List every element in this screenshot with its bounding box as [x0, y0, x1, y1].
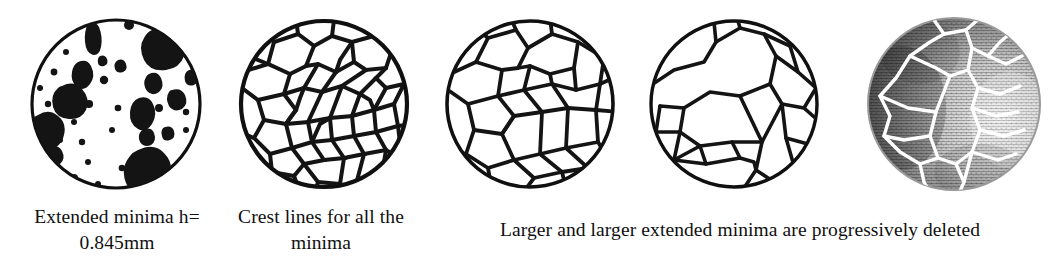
figure-caption-row: Extended minima h= 0.845mm Crest lines f… — [0, 198, 1058, 270]
caption-progressive-deletion: Larger and larger extended minima are pr… — [430, 217, 1050, 243]
caption-extended-minima: Extended minima h= 0.845mm — [8, 204, 226, 256]
panel-watershed-medium — [440, 12, 624, 196]
caption-2-line-1: Crest lines for all the — [238, 206, 404, 227]
grayscale-texture — [860, 12, 1052, 196]
grayscale-overlay-svg — [860, 12, 1052, 196]
figure-panel: Extended minima h= 0.845mm Crest lines f… — [0, 0, 1058, 270]
circle-outline — [651, 21, 817, 187]
crest-lines-dense-svg — [234, 12, 418, 196]
panel-watershed-coarse — [644, 12, 828, 196]
caption-2-line-2: minima — [291, 232, 351, 253]
extended-minima-svg — [26, 12, 210, 196]
watershed-coarse-svg — [644, 12, 828, 196]
caption-1-line-1: Extended minima h= — [34, 206, 200, 227]
caption-crest-lines: Crest lines for all the minima — [226, 204, 416, 256]
panel-crest-lines-all — [234, 12, 418, 196]
caption-1-line-2: 0.845mm — [80, 232, 155, 253]
panel-grayscale-overlay — [860, 12, 1044, 196]
panel-extended-minima — [26, 12, 210, 196]
figure-image-row — [0, 0, 1058, 200]
watershed-medium-svg — [440, 12, 624, 196]
circle-outline — [241, 21, 407, 187]
